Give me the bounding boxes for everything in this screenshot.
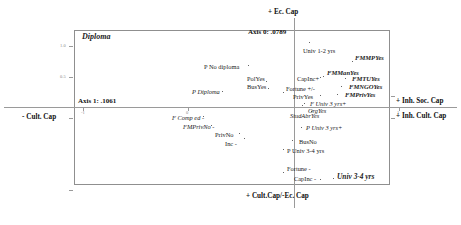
axis0-inertia-label: Axis 0: .0789	[248, 28, 286, 36]
y-tick	[391, 96, 395, 97]
axis-caption-left: - Cult. Cap	[22, 113, 56, 121]
point-label: Fortune +/-	[286, 86, 315, 92]
y-tick	[69, 118, 73, 119]
axis-caption-top: + Ec. Cap	[268, 8, 298, 16]
point-label: PolYes	[247, 76, 265, 82]
y-tick	[69, 77, 73, 78]
point-label: PrivNo	[215, 132, 233, 138]
point-label: F Comp ed -	[172, 115, 204, 121]
point-label: StudAbrYes	[290, 113, 319, 119]
x-tick-label: -1	[81, 110, 85, 115]
axis-caption-bottom: + Cult.Cap/-Ec. Cap	[246, 192, 309, 200]
point-label: P Univ 3-4 yrs	[287, 148, 324, 154]
point-label: BusNo	[299, 139, 317, 145]
point-label: P No diploma	[204, 64, 239, 70]
axis-caption-right-lower: + Inh. Cult. Cap	[396, 112, 446, 120]
point-label: FMPrivYes	[345, 92, 375, 99]
point-label: Univ 3-4 yrs	[337, 173, 374, 180]
x-tick	[294, 107, 295, 111]
y-tick	[391, 118, 395, 119]
point-label: CapInc+	[297, 76, 319, 82]
point-label: BusYes	[247, 84, 266, 90]
point-label: P Diploma	[192, 89, 220, 95]
y-tick	[69, 46, 73, 47]
horizontal-axis-line	[4, 107, 457, 108]
point-label: Fortune -	[287, 166, 311, 172]
y-tick-label: 1.0	[60, 43, 66, 48]
y-tick-label: 0.5	[60, 74, 66, 79]
point-label: FMMPYes	[355, 55, 384, 62]
point-label: FMTUYes	[352, 76, 380, 83]
point-label: CapInc -	[294, 176, 316, 182]
point-label: P Univ 3 yrs+	[306, 125, 342, 131]
point-label: FMNGOYes	[349, 84, 382, 91]
axis1-inertia-label: Axis 1: .1061	[78, 97, 116, 105]
axis-caption-right-upper: + Inh. Soc. Cap	[396, 97, 443, 105]
plot-title: Diploma	[82, 33, 110, 41]
figure-canvas: 1.0 0.5 -1 0 1 + Ec. Cap + Cult.Cap/-Ec.…	[0, 0, 461, 225]
point-label: Univ 1-2 yrs	[303, 48, 335, 54]
y-tick	[69, 190, 73, 191]
point-label: FMPrivNo -	[183, 124, 214, 130]
point-label: Inc -	[225, 141, 237, 147]
